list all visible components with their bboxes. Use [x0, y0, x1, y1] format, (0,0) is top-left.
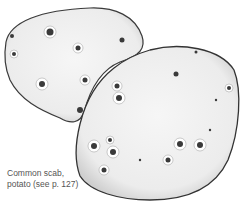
caption-line-1: Common scab,	[7, 168, 78, 179]
caption-line-2: potato (see p. 127)	[7, 179, 78, 190]
figure-caption: Common scab, potato (see p. 127)	[7, 168, 78, 190]
